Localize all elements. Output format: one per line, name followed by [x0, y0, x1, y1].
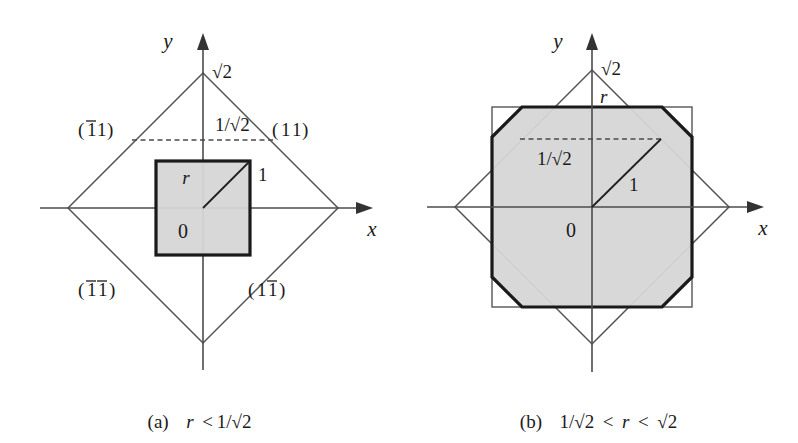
- caption-b-prefix: (b): [520, 411, 542, 432]
- svg-text:(: (: [248, 279, 254, 301]
- svg-text:): ): [302, 119, 308, 141]
- miller-label-m11-a: ( 1 1 ): [78, 119, 113, 141]
- caption-b: (b) 1/√2 < r < √2: [399, 411, 798, 433]
- caption-a-sqrt: √2: [231, 411, 251, 432]
- caption-a-rel: < 1/: [198, 411, 231, 432]
- y-axis-label-a: y: [161, 29, 173, 53]
- miller-digit: 1: [87, 119, 97, 140]
- caption-a: (a) r < 1/√2: [0, 411, 399, 433]
- r-label-a: r: [182, 167, 190, 188]
- figure-container: y x √2 1/√2 r 1 0 ( 1 1 ) ( 1 1 ): [0, 0, 798, 443]
- inv-sqrt2-label-b: 1/√2: [537, 148, 572, 169]
- x-axis-arrowhead-b: [747, 201, 764, 213]
- svg-text:(: (: [78, 279, 84, 301]
- miller-digit: 1: [87, 279, 97, 300]
- miller-label-m1m1-a: ( 1 1 ): [78, 279, 115, 301]
- caption-b-sqrt-lhs: √2: [574, 411, 594, 432]
- y-axis-arrowhead-b: [586, 33, 598, 50]
- r-label-b: r: [600, 86, 608, 107]
- miller-label-1m1-a: ( 1 1 ): [248, 279, 285, 301]
- miller-digit: 1: [281, 119, 291, 140]
- x-axis-label-b: x: [757, 216, 768, 240]
- caption-b-rel2: <: [634, 411, 652, 432]
- svg-text:): ): [109, 279, 115, 301]
- caption-b-sqrt-rhs: √2: [657, 411, 677, 432]
- miller-digit: 1: [97, 119, 107, 140]
- panel-b-diagram: y x √2 r 1/√2 1 0: [399, 0, 798, 400]
- inv-sqrt2-label-a: 1/√2: [215, 114, 250, 135]
- diagonal-one-label-b: 1: [629, 174, 639, 195]
- x-axis-label-a: x: [366, 217, 377, 241]
- svg-text:): ): [107, 119, 113, 141]
- y-axis-arrowhead-a: [197, 33, 209, 50]
- miller-digit: 1: [257, 279, 267, 300]
- miller-digit: 1: [292, 119, 302, 140]
- y-axis-label-b: y: [551, 29, 563, 53]
- svg-text:(: (: [78, 119, 84, 141]
- miller-digit: 1: [268, 279, 278, 300]
- diagonal-one-label-a: 1: [258, 164, 268, 185]
- caption-a-var: r: [186, 411, 193, 432]
- sqrt2-label-b: √2: [601, 58, 621, 79]
- svg-text:(: (: [272, 119, 278, 141]
- miller-label-11-a: ( 1 1 ): [272, 119, 308, 141]
- origin-label-a: 0: [178, 220, 188, 242]
- caption-a-prefix: (a): [148, 411, 169, 432]
- svg-text:): ): [279, 279, 285, 301]
- sqrt2-label-a: √2: [212, 61, 232, 82]
- caption-b-lhs: 1/: [559, 411, 574, 432]
- panel-a-diagram: y x √2 1/√2 r 1 0 ( 1 1 ) ( 1 1 ): [0, 0, 399, 400]
- origin-label-b: 0: [566, 219, 576, 241]
- x-axis-arrowhead-a: [356, 202, 373, 214]
- caption-b-var: r: [622, 411, 629, 432]
- miller-digit: 1: [98, 279, 108, 300]
- panel-a: y x √2 1/√2 r 1 0 ( 1 1 ) ( 1 1 ): [0, 0, 399, 443]
- caption-b-rel1: <: [599, 411, 617, 432]
- panel-b: y x √2 r 1/√2 1 0 (b) 1/√2 < r < √2: [399, 0, 798, 443]
